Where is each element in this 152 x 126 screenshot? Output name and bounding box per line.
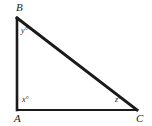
angle-label-z: z° — [115, 96, 121, 104]
vertex-label-c: C — [136, 113, 143, 124]
angle-label-y: y° — [21, 27, 28, 35]
angle-label-x: x° — [22, 96, 29, 104]
vertex-label-b: B — [16, 2, 23, 13]
triangle-shape — [0, 0, 152, 126]
triangle-figure: B A C y° x° z° — [0, 0, 152, 126]
vertex-label-a: A — [14, 113, 21, 124]
